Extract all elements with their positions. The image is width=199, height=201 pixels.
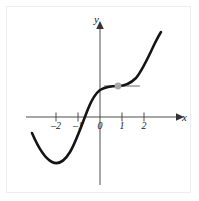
x-tick-label--1: –1 <box>72 121 84 131</box>
function-curve <box>32 32 161 163</box>
x-tick-label-0: 0 <box>95 121 105 131</box>
x-axis-label: x <box>182 112 187 123</box>
y-axis-label: y <box>94 14 99 25</box>
stationary-point-dot <box>115 83 122 90</box>
graph-figure: x y –2 –1 0 1 2 <box>0 0 199 201</box>
x-tick-label--2: –2 <box>50 121 62 131</box>
plot-svg <box>0 0 199 201</box>
x-tick-label-1: 1 <box>117 121 127 131</box>
x-tick-label-2: 2 <box>139 121 149 131</box>
